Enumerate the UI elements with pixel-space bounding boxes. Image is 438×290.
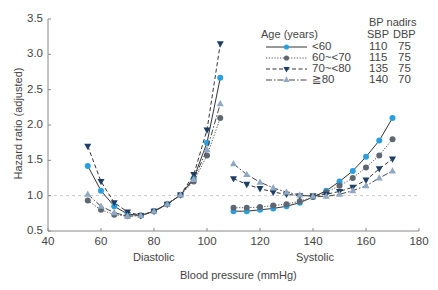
legend-title: Age (years): [261, 29, 318, 40]
data-point-diastolic: [217, 115, 223, 121]
data-point-systolic: [376, 152, 382, 158]
y-tick-label: 3.5: [13, 13, 43, 25]
data-point-diastolic: [217, 75, 223, 81]
y-tick-label: 1.0: [13, 190, 43, 202]
y-tick-label: 3.0: [13, 48, 43, 60]
data-point-systolic: [376, 166, 383, 172]
data-point-systolic: [376, 138, 382, 144]
data-point-diastolic: [84, 144, 91, 150]
legend-marker: [283, 67, 289, 73]
y-tick-label: 0.5: [13, 225, 43, 237]
data-point-systolic: [243, 171, 250, 177]
data-point-systolic: [270, 190, 277, 196]
data-point-diastolic: [85, 163, 91, 169]
data-point-systolic: [390, 115, 396, 121]
legend-marker: [284, 44, 289, 49]
data-point-systolic: [390, 136, 396, 142]
x-tick-label: 40: [33, 236, 63, 248]
series-line-diastolic: [88, 78, 221, 216]
legend-series-label: ≧80: [312, 74, 334, 86]
diastolic-label: Diastolic: [133, 252, 175, 263]
legend-nadir-header: BP nadirs: [369, 17, 417, 28]
legend-marker: [283, 77, 289, 83]
x-tick-label: 100: [192, 236, 222, 248]
legend-nadir-sbp: 140: [369, 74, 388, 86]
data-point-systolic: [230, 160, 237, 166]
hazard-ratio-chart: Hazard ratio (adjusted) Blood pressure (…: [0, 0, 438, 290]
data-point-systolic: [270, 203, 276, 209]
data-point-systolic: [363, 154, 369, 160]
data-point-diastolic: [217, 41, 224, 47]
legend-nadir-dbp: 70: [398, 74, 411, 86]
data-point-diastolic: [98, 179, 105, 185]
x-tick-label: 80: [139, 236, 169, 248]
data-point-diastolic: [217, 100, 224, 106]
data-point-diastolic: [98, 188, 104, 194]
series-line-diastolic: [88, 44, 221, 216]
legend-sbp-header: SBP: [367, 29, 389, 40]
data-point-systolic: [257, 186, 264, 192]
data-point-diastolic: [84, 190, 91, 196]
x-tick-label: 120: [245, 236, 275, 248]
data-point-systolic: [350, 168, 356, 174]
x-axis-label: Blood pressure (mmHg): [180, 270, 297, 281]
y-tick-label: 2.0: [13, 119, 43, 131]
data-point-systolic: [389, 167, 396, 173]
systolic-label: Systolic: [296, 252, 334, 263]
x-tick-label: 60: [86, 236, 116, 248]
data-point-systolic: [270, 184, 277, 190]
data-point-systolic: [337, 183, 343, 189]
x-tick-label: 180: [404, 236, 434, 248]
legend-marker: [284, 55, 289, 60]
data-point-systolic: [376, 174, 383, 180]
data-point-systolic: [244, 205, 250, 211]
data-point-systolic: [231, 205, 237, 211]
data-point-systolic: [350, 175, 356, 181]
y-tick-label: 2.5: [13, 84, 43, 96]
x-tick-label: 140: [298, 236, 328, 248]
data-point-systolic: [363, 182, 370, 188]
data-point-systolic: [284, 201, 290, 207]
legend-dbp-header: DBP: [393, 29, 416, 40]
data-point-diastolic: [111, 209, 118, 215]
x-tick-label: 160: [351, 236, 381, 248]
data-point-systolic: [389, 156, 396, 162]
series-line-diastolic: [88, 118, 221, 216]
data-point-diastolic: [85, 198, 91, 204]
data-point-systolic: [257, 204, 263, 210]
data-point-systolic: [363, 164, 369, 170]
y-tick-label: 1.5: [13, 154, 43, 166]
data-point-systolic: [257, 178, 264, 184]
